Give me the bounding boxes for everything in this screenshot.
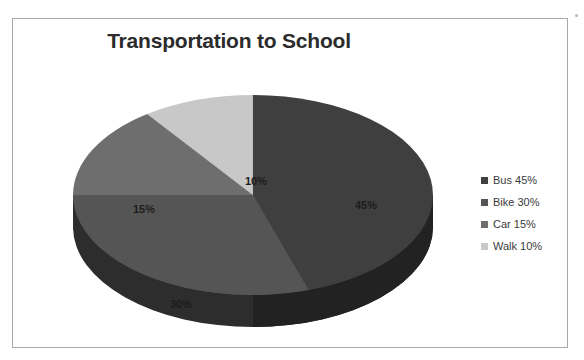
slice-label-walk: 10%: [245, 175, 267, 187]
legend-label-walk: Walk 10%: [493, 240, 542, 252]
legend-item-walk[interactable]: Walk 10%: [481, 235, 573, 257]
slice-label-bus: 45%: [355, 199, 377, 211]
legend-item-bike[interactable]: Bike 30%: [481, 191, 573, 213]
pie-chart-svg: [53, 77, 453, 327]
chart-frame: Transportation to School: [12, 18, 568, 348]
chart-title: Transportation to School: [13, 29, 445, 53]
slice-label-bike: 30%: [170, 298, 192, 310]
chart-legend: Bus 45% Bike 30% Car 15% Walk 10%: [481, 169, 573, 257]
legend-label-bike: Bike 30%: [493, 196, 539, 208]
scan-speck: [575, 14, 578, 17]
legend-swatch-car: [481, 221, 488, 228]
legend-swatch-bike: [481, 199, 488, 206]
legend-label-car: Car 15%: [493, 218, 536, 230]
slice-label-car: 15%: [133, 203, 155, 215]
scan-artifact-top-text: [18, 0, 318, 12]
legend-swatch-walk: [481, 243, 488, 250]
legend-item-bus[interactable]: Bus 45%: [481, 169, 573, 191]
legend-item-car[interactable]: Car 15%: [481, 213, 573, 235]
legend-swatch-bus: [481, 177, 488, 184]
legend-label-bus: Bus 45%: [493, 174, 537, 186]
pie-chart-area: 45% 30% 15% 10%: [53, 77, 453, 327]
